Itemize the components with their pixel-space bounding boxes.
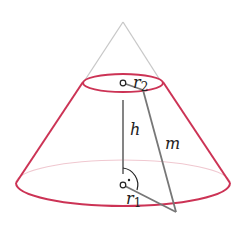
frustum-diagram: r2 h m r1 [0, 0, 248, 230]
apex-line-left [85, 22, 123, 80]
top-center-point [120, 80, 126, 86]
label-m: m [165, 134, 180, 153]
apex-line-right [123, 22, 160, 80]
base-center-point [120, 182, 126, 188]
side-right [163, 82, 230, 183]
side-left [16, 82, 83, 183]
label-h: h [130, 120, 140, 139]
right-angle-dot [128, 179, 130, 181]
